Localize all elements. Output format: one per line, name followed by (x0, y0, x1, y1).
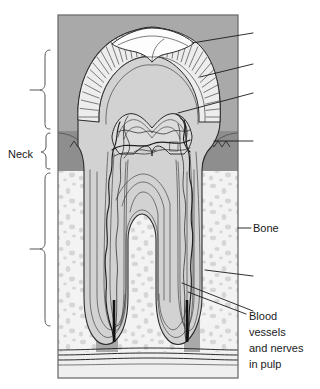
crown-brace (30, 50, 50, 129)
label-blood-line-3: and nerves (249, 342, 304, 354)
label-bone: Bone (253, 222, 279, 234)
root-brace (30, 173, 50, 326)
label-blood-line-4: in pulp (249, 358, 281, 370)
crown-brace-path (40, 50, 50, 129)
neck-brace (41, 133, 50, 169)
label-neck: Neck (8, 148, 34, 160)
root-brace-path (40, 173, 50, 326)
panel-contents (58, 27, 238, 378)
tooth-diagram-svg: Neck Bone Blood vessels and nerves in pu… (0, 0, 320, 389)
base-bands (58, 348, 238, 378)
label-blood-vessels-and-nerves-in-pulp: Blood vessels and nerves in pulp (249, 310, 304, 370)
neck-brace-path (41, 133, 50, 169)
label-blood-line-2: vessels (249, 326, 286, 338)
label-blood-line-1: Blood (249, 310, 277, 322)
brace-group (30, 50, 50, 326)
tooth-diagram-figure: Neck Bone Blood vessels and nerves in pu… (0, 0, 320, 389)
bone-right (200, 166, 238, 352)
